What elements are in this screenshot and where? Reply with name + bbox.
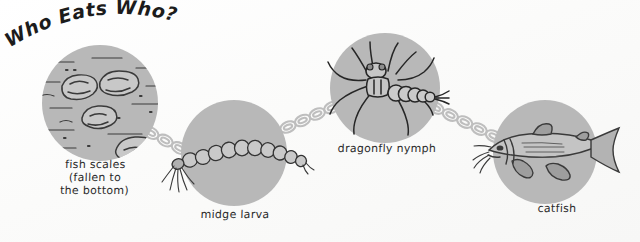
page-title: Who Eats Who?: [0, 0, 210, 56]
node-catfish: [473, 100, 619, 204]
node-fish-scales: [40, 45, 158, 162]
caption-dragonfly-nymph: dragonfly nymph: [322, 142, 452, 155]
svg-text:Who Eats Who?: Who Eats Who?: [1, 0, 180, 51]
food-chain-illustration: Who Eats Who? fish scales (fallen to the…: [0, 0, 640, 242]
caption-catfish: catfish: [492, 202, 622, 215]
page-title-text: Who Eats Who?: [1, 0, 180, 51]
chain-nymph-to-catfish: [427, 100, 503, 144]
chain-midge-to-nymph: [279, 99, 342, 135]
caption-midge-larva: midge larva: [170, 208, 300, 221]
caption-fish-scales: fish scales (fallen to the bottom): [29, 158, 160, 197]
node-midge-larva: [162, 100, 314, 206]
node-dragonfly-nymph: [328, 33, 449, 143]
